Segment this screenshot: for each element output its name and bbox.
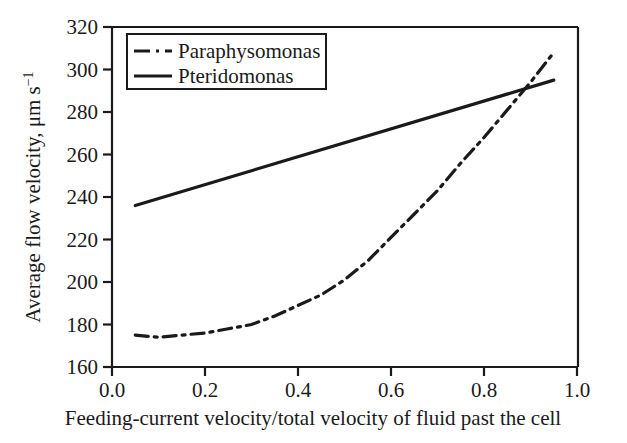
chart-figure: 320 300 280 260 240 220 200 180 160 0.0 …	[0, 0, 627, 443]
x-tick-label-0.0: 0.0	[99, 378, 125, 402]
y-axis-title-text: Average flow velocity, μm s	[21, 86, 45, 322]
x-tick-label-0.2: 0.2	[192, 378, 218, 402]
y-axis-title-group: Average flow velocity, μm s−1	[21, 71, 45, 322]
y-tick-label-320: 320	[67, 15, 99, 39]
x-tick-label-0.8: 0.8	[471, 378, 497, 402]
x-tick-label-0.6: 0.6	[378, 378, 404, 402]
legend-label-pteridomonas: Pteridomonas	[178, 64, 294, 88]
x-axis-title: Feeding-current velocity/total velocity …	[65, 406, 561, 430]
legend: Paraphysomonas Pteridomonas	[127, 34, 326, 89]
y-tick-labels: 320 300 280 260 240 220 200 180 160	[67, 15, 99, 379]
y-tick-label-300: 300	[67, 58, 99, 82]
y-tick-label-160: 160	[67, 355, 99, 379]
y-tick-label-220: 220	[67, 228, 99, 252]
y-tick-label-240: 240	[67, 185, 99, 209]
chart-canvas: 320 300 280 260 240 220 200 180 160 0.0 …	[0, 0, 627, 443]
y-tick-label-260: 260	[67, 143, 99, 167]
legend-label-paraphysomonas: Paraphysomonas	[178, 39, 320, 63]
y-tick-label-280: 280	[67, 100, 99, 124]
y-tick-label-180: 180	[67, 313, 99, 337]
x-tick-label-1.0: 1.0	[564, 378, 590, 402]
y-tick-label-200: 200	[67, 270, 99, 294]
y-axis-title: Average flow velocity, μm s−1	[21, 71, 45, 322]
x-tick-label-0.4: 0.4	[285, 378, 312, 402]
y-axis-title-exponent: −1	[21, 71, 36, 86]
